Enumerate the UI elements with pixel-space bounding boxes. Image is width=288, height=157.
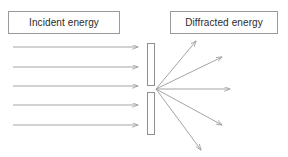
- incident-ray-group: [13, 47, 138, 125]
- diffraction-diagram: Incident energy Diffracted energy: [0, 0, 288, 157]
- ray-vector-layer: [0, 0, 288, 157]
- barrier-plate-lower: [148, 93, 155, 135]
- diffracted-ray-arrow: [156, 57, 222, 89]
- diffracted-ray-arrow: [156, 89, 222, 125]
- barrier-plate-upper: [148, 44, 155, 86]
- slit-barrier-group: [148, 44, 155, 135]
- diffracted-ray-group: [156, 41, 230, 150]
- diffracted-ray-arrow: [156, 41, 196, 89]
- diffracted-ray-arrow: [156, 89, 201, 150]
